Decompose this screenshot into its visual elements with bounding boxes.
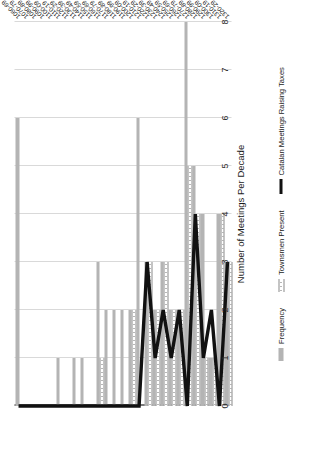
chart-legend: Frequency Townsmen Present Catalan Meeti…	[276, 22, 285, 406]
value-tick-5: 5	[219, 151, 229, 181]
value-axis-title: Number of Meetings Per Decade	[234, 22, 245, 406]
value-tick-6: 6	[219, 103, 229, 133]
bar-gray-swatch-icon	[278, 348, 283, 361]
bar-dotted-swatch-icon	[278, 279, 284, 292]
legend-label-frequency: Frequency	[276, 308, 285, 344]
value-tick-2: 2	[219, 295, 229, 325]
value-tick-3: 3	[219, 247, 229, 277]
chart-figure: 012345678 Number of Meetings Per Decade …	[0, 0, 323, 464]
legend-item-frequency: Frequency	[276, 308, 285, 361]
legend-label-townsmen-present: Townsmen Present	[276, 210, 285, 275]
value-tick-4: 4	[219, 199, 229, 229]
line-black-swatch-icon	[279, 179, 282, 194]
value-tick-1: 1	[219, 343, 229, 373]
legend-item-catalan-meetings-raising-taxes: Catalan Meetings Raising Taxes	[276, 67, 285, 194]
legend-label-catalan-meetings-raising-taxes: Catalan Meetings Raising Taxes	[276, 67, 285, 175]
chart-figure-wrapper: 012345678 Number of Meetings Per Decade …	[0, 0, 323, 464]
value-tick-7: 7	[219, 55, 229, 85]
plot-area	[14, 22, 231, 406]
taxes-line-path	[18, 214, 227, 406]
taxes-line-series	[14, 22, 231, 406]
value-tick-0: 0	[219, 391, 229, 421]
legend-item-townsmen-present: Townsmen Present	[276, 210, 285, 292]
